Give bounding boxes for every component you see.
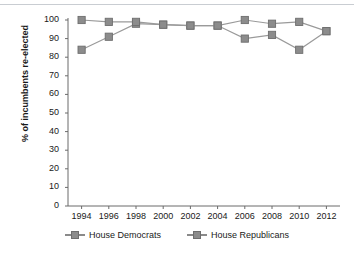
y-tick-label: 70 — [33, 70, 59, 80]
x-tick-label: 2004 — [203, 211, 233, 221]
x-tick-label: 2010 — [284, 211, 314, 221]
y-tick-label: 50 — [33, 107, 59, 117]
top-divider-rule — [0, 4, 354, 5]
x-tick-label: 2006 — [230, 211, 260, 221]
y-tick-label: 60 — [33, 88, 59, 98]
data-point-marker — [296, 46, 303, 53]
chart-figure: % of incumbents re-elected 0102030405060… — [0, 0, 354, 262]
data-point-marker — [160, 21, 167, 28]
data-point-marker — [214, 22, 221, 29]
legend-marker-icon — [187, 230, 207, 240]
data-point-marker — [105, 33, 112, 40]
series-house-republicans — [78, 16, 330, 34]
x-tick-label: 1996 — [94, 211, 124, 221]
y-tick-label: 40 — [33, 126, 59, 136]
legend-label: House Democrats — [89, 230, 161, 240]
legend-item-house-republicans[interactable]: House Republicans — [187, 230, 289, 240]
y-tick-label: 80 — [33, 51, 59, 61]
data-point-marker — [241, 35, 248, 42]
legend-label: House Republicans — [211, 230, 289, 240]
data-point-marker — [105, 18, 112, 25]
chart-legend: House DemocratsHouse Republicans — [0, 230, 354, 240]
data-point-marker — [78, 46, 85, 53]
data-point-marker — [296, 18, 303, 25]
y-tick-label: 100 — [33, 14, 59, 24]
data-point-marker — [187, 22, 194, 29]
series-line — [82, 20, 327, 31]
x-tick-label: 2012 — [311, 211, 341, 221]
y-tick-label: 30 — [33, 144, 59, 154]
data-point-marker — [241, 16, 248, 23]
y-tick-label: 10 — [33, 181, 59, 191]
y-tick-label: 90 — [33, 33, 59, 43]
legend-marker-icon — [65, 230, 85, 240]
x-tick-label: 2002 — [175, 211, 205, 221]
y-tick-label: 0 — [33, 200, 59, 210]
data-point-marker — [323, 28, 330, 35]
series-line — [82, 24, 327, 50]
data-point-marker — [132, 18, 139, 25]
x-tick-label: 1998 — [121, 211, 151, 221]
x-tick-label: 2000 — [148, 211, 178, 221]
data-point-marker — [268, 20, 275, 27]
y-tick-label: 20 — [33, 163, 59, 173]
legend-item-house-democrats[interactable]: House Democrats — [65, 230, 161, 240]
x-tick-label: 1994 — [67, 211, 97, 221]
data-point-marker — [78, 16, 85, 23]
data-point-marker — [268, 31, 275, 38]
y-axis-title: % of incumbents re-elected — [20, 14, 31, 154]
x-tick-label: 2008 — [257, 211, 287, 221]
